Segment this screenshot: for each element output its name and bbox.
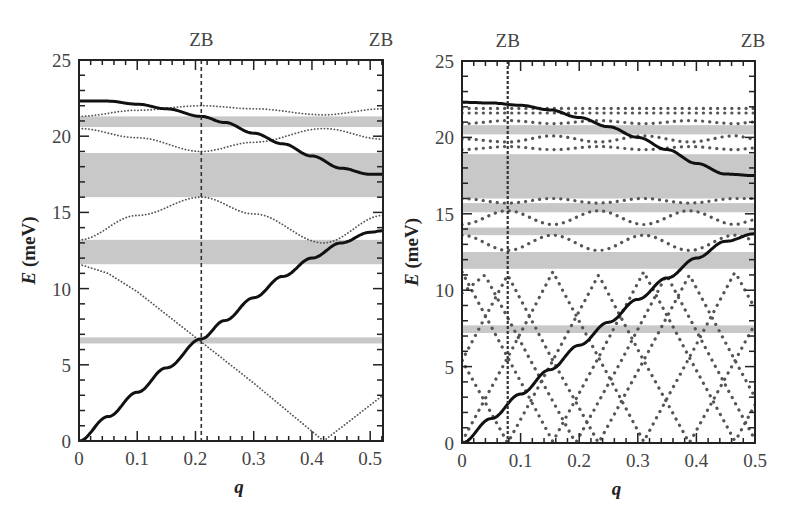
y-axis-unit: (meV) (18, 216, 40, 271)
x-tick-label: 0.2 (567, 450, 591, 471)
left-y-tick-labels: 0 5 10 15 20 25 (52, 50, 71, 452)
x-tick-label: 0.3 (626, 450, 650, 471)
folded-branch-dots (462, 199, 755, 204)
folded-branch-dots (462, 272, 755, 442)
figure-canvas: ZB ZB 0 0.1 0.2 0.3 0.4 0.5 0 5 10 15 20… (0, 0, 795, 521)
y-axis-symbol: E (18, 272, 39, 286)
x-tick-label: 0 (74, 448, 84, 469)
gap-band (80, 153, 382, 197)
y-axis-unit: (meV) (401, 218, 423, 273)
y-tick-label: 0 (445, 433, 455, 454)
left-zb-label-2: ZB (369, 29, 393, 50)
x-tick-label: 0.1 (125, 448, 149, 469)
left-y-axis-title: E (meV) (18, 216, 40, 285)
x-tick-label: 0.2 (184, 448, 208, 469)
folded-branch-dots (462, 147, 755, 150)
left-dispersion-plot: ZB ZB 0 0.1 0.2 0.3 0.4 0.5 0 5 10 15 20… (18, 29, 393, 497)
x-tick-label: 0.5 (743, 450, 767, 471)
y-tick-label: 10 (435, 280, 454, 301)
y-tick-label: 25 (435, 51, 454, 72)
right-solid-branches (462, 102, 755, 443)
y-tick-label: 20 (435, 127, 454, 148)
left-solid-branches (79, 101, 383, 441)
right-dispersion-plot: ZB ZB 0 0.1 0.2 0.3 0.4 0.5 0 5 10 15 20… (401, 30, 767, 499)
y-tick-label: 5 (445, 357, 455, 378)
gap-band (80, 337, 382, 343)
folded-branch-dots (462, 136, 755, 142)
right-x-tick-labels: 0 0.1 0.2 0.3 0.4 0.5 (457, 450, 767, 471)
y-tick-label: 5 (62, 355, 72, 376)
x-tick-label: 0 (457, 450, 467, 471)
folded-branch-dots (79, 129, 383, 152)
left-x-axis-title: q (234, 476, 244, 497)
y-tick-label: 25 (52, 50, 71, 71)
x-tick-label: 0.4 (300, 448, 324, 469)
x-tick-label: 0.5 (358, 448, 382, 469)
folded-branch-dots (79, 106, 383, 117)
folded-branch-dots (462, 211, 755, 225)
left-gap-bands (80, 116, 382, 343)
right-x-axis-title: q (612, 478, 622, 499)
x-tick-label: 0.1 (509, 450, 533, 471)
y-tick-label: 0 (62, 431, 72, 452)
folded-branch-dots (462, 121, 755, 124)
y-tick-label: 10 (52, 279, 71, 300)
y-tick-label: 15 (52, 202, 71, 223)
right-y-axis-title: E (meV) (401, 218, 423, 287)
y-tick-label: 20 (52, 126, 71, 147)
folded-branch-dots (79, 197, 383, 243)
gap-band (80, 116, 382, 127)
folded-branch-dots (462, 272, 755, 442)
x-tick-label: 0.3 (242, 448, 266, 469)
y-axis-symbol: E (401, 273, 422, 287)
right-y-tick-labels: 0 5 10 15 20 25 (435, 51, 454, 454)
right-zb-label-1: ZB (496, 30, 520, 51)
folded-branch-dots (79, 264, 383, 441)
left-zb-label-1: ZB (189, 29, 213, 50)
right-zb-label-2: ZB (741, 30, 765, 51)
y-tick-label: 15 (435, 204, 454, 225)
x-tick-label: 0.4 (685, 450, 709, 471)
left-x-tick-labels: 0 0.1 0.2 0.3 0.4 0.5 (74, 448, 382, 469)
